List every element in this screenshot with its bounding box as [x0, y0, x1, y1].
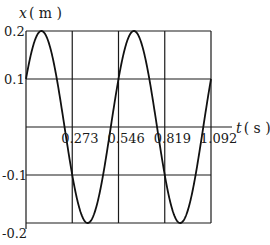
x-axis-label: t( s ): [236, 120, 270, 136]
y-tick-label: -0.1: [2, 168, 27, 183]
tick-labels: 0.20.1-0.1-0.20.2730.5460.8191.092: [2, 24, 237, 241]
y-tick-label: 0.1: [4, 72, 25, 87]
x-tick-label: 1.092: [200, 131, 237, 146]
x-tick-label: 0.546: [108, 131, 145, 146]
x-tick-label: 0.819: [154, 131, 191, 146]
chart: 0.20.1-0.1-0.20.2730.5460.8191.092 x( m …: [0, 0, 270, 245]
x-tick-label: 0.273: [61, 131, 98, 146]
y-axis-label: x( m ): [19, 5, 62, 21]
grid: [26, 31, 232, 229]
y-tick-label: -0.2: [2, 226, 27, 241]
y-tick-label: 0.2: [4, 24, 25, 39]
